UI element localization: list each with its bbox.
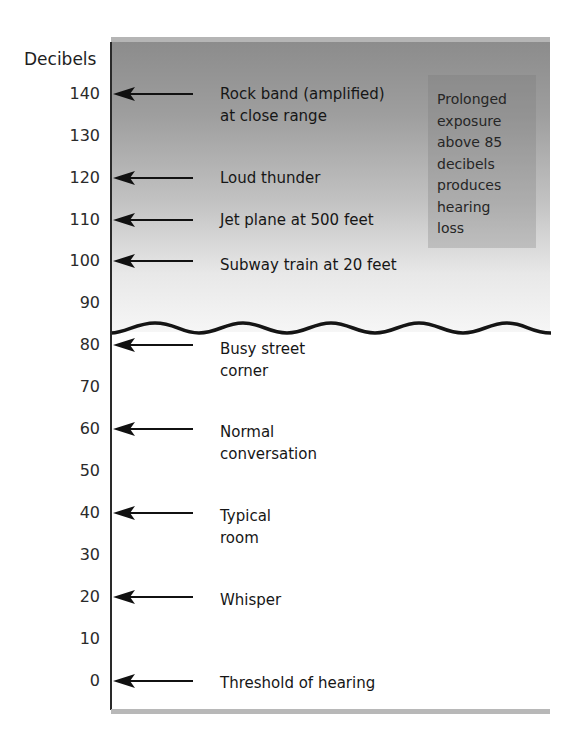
marker-label-typical-room: Typical room <box>220 505 271 549</box>
tick-label: 80 <box>0 335 100 354</box>
label-line: Normal <box>220 421 317 443</box>
label-line: Jet plane at 500 feet <box>220 209 374 231</box>
tick-label: 10 <box>0 629 100 648</box>
label-line: Whisper <box>220 589 281 611</box>
arrow-left-icon <box>113 254 193 268</box>
tick-label: 140 <box>0 84 100 103</box>
bottom-border-band <box>111 709 550 714</box>
arrow-left-icon <box>113 87 193 101</box>
tick-label: 60 <box>0 419 100 438</box>
arrow-left-icon <box>113 422 193 436</box>
tick-label: 50 <box>0 461 100 480</box>
info-box: Prolonged exposure above 85 decibels pro… <box>428 75 536 248</box>
arrow-left-icon <box>113 590 193 604</box>
label-line: conversation <box>220 443 317 465</box>
info-line: Prolonged <box>437 89 507 111</box>
tick-label: 20 <box>0 587 100 606</box>
info-box-text: Prolonged exposure above 85 decibels pro… <box>437 89 507 240</box>
arrow-left-icon <box>113 338 193 352</box>
tick-label: 40 <box>0 503 100 522</box>
label-line: Loud thunder <box>220 167 320 189</box>
info-line: hearing <box>437 197 507 219</box>
info-line: produces <box>437 175 507 197</box>
arrow-left-icon <box>113 506 193 520</box>
label-line: Busy street <box>220 338 305 360</box>
tick-label: 100 <box>0 251 100 270</box>
marker-label-busy-street: Busy street corner <box>220 338 305 382</box>
marker-label-jet-plane: Jet plane at 500 feet <box>220 209 374 231</box>
axis-title: Decibels <box>24 49 96 69</box>
info-line: exposure <box>437 111 507 133</box>
label-line: corner <box>220 360 305 382</box>
arrow-left-icon <box>113 171 193 185</box>
marker-label-subway-train: Subway train at 20 feet <box>220 254 397 276</box>
tick-label: 90 <box>0 293 100 312</box>
marker-label-whisper: Whisper <box>220 589 281 611</box>
arrow-left-icon <box>113 213 193 227</box>
info-line: above 85 <box>437 132 507 154</box>
tick-label: 110 <box>0 210 100 229</box>
tick-label: 0 <box>0 671 100 690</box>
label-line: Rock band (amplified) <box>220 83 385 105</box>
label-line: Subway train at 20 feet <box>220 254 397 276</box>
marker-label-loud-thunder: Loud thunder <box>220 167 320 189</box>
marker-label-normal-conversation: Normal conversation <box>220 421 317 465</box>
tick-label: 70 <box>0 377 100 396</box>
marker-label-rock-band: Rock band (amplified) at close range <box>220 83 385 127</box>
y-axis-line <box>110 42 112 710</box>
tick-label: 130 <box>0 126 100 145</box>
info-line: loss <box>437 218 507 240</box>
tick-label: 30 <box>0 545 100 564</box>
tick-label: 120 <box>0 168 100 187</box>
label-line: at close range <box>220 105 385 127</box>
info-line: decibels <box>437 154 507 176</box>
label-line: Threshold of hearing <box>220 672 375 694</box>
label-line: Typical <box>220 505 271 527</box>
label-line: room <box>220 527 271 549</box>
marker-label-threshold: Threshold of hearing <box>220 672 375 694</box>
arrow-left-icon <box>113 674 193 688</box>
